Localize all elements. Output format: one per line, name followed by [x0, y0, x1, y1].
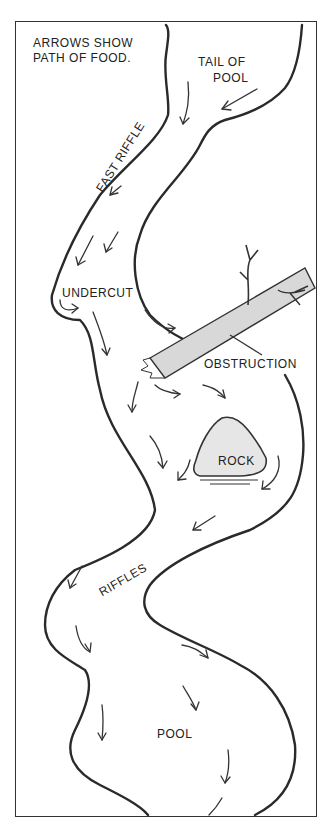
rock: [194, 417, 267, 484]
rock-label: ROCK: [218, 454, 255, 469]
pool-label: POOL: [157, 727, 192, 742]
stream-diagram: [0, 0, 332, 838]
tail-of-pool-label-1: TAIL OF: [198, 55, 246, 70]
note-line-2: PATH OF FOOD.: [33, 51, 131, 66]
left-bank: [45, 25, 168, 815]
note-line-1: ARROWS SHOW: [33, 36, 133, 51]
tail-of-pool-label-2: POOL: [213, 71, 248, 86]
obstruction-label: OBSTRUCTION: [204, 357, 297, 372]
undercut-label: UNDERCUT: [62, 286, 133, 301]
